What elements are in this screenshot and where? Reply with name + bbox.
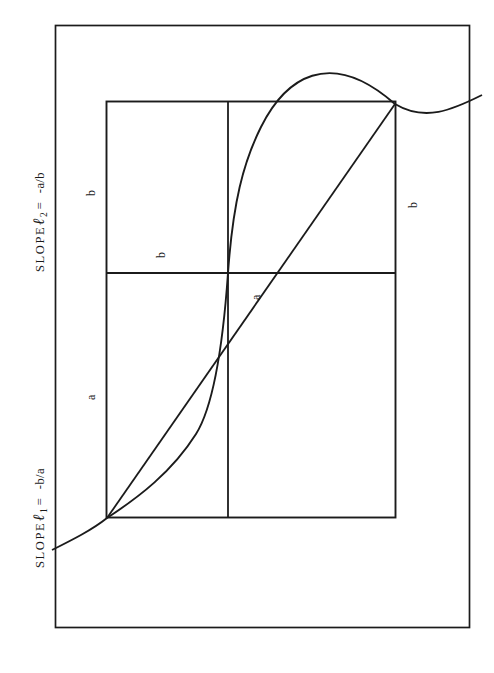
slope-2-equals: = [33,202,47,210]
slope-2-value: -a/b [33,172,47,202]
segment-label-text: b [154,252,168,259]
segment-label-upper-left-b: b [84,190,99,197]
s-curve [52,73,482,550]
segment-label-text: a [249,294,263,300]
slope-1-annotation: SLOPEℓ1=-b/a [30,468,49,568]
figure-canvas: SLOPEℓ2=-a/b SLOPEℓ1=-b/a b a b a b [0,0,494,673]
figure-svg [0,0,494,673]
slope-2-prefix: SLOPE [33,226,47,272]
segment-label-inner-mid-a: a [249,294,264,300]
slope-2-symbol: ℓ [30,217,47,226]
slope-1-equals: = [33,498,47,506]
slope-1-prefix: SLOPE [33,522,47,568]
segment-label-text: b [84,190,98,197]
outer-frame [56,26,470,628]
segment-label-inner-mid-b: b [154,252,169,259]
segment-label-text: a [84,394,98,400]
slope-1-value: -b/a [33,468,47,498]
slope-2-annotation: SLOPEℓ2=-a/b [30,172,49,272]
segment-label-lower-left-a: a [84,394,99,400]
diagonal-chord [107,104,395,518]
segment-label-text: b [406,202,420,209]
segment-label-right-b: b [406,202,421,209]
slope-1-subscript: 1 [39,506,49,513]
slope-1-symbol: ℓ [30,513,47,522]
slope-2-subscript: 2 [39,210,49,217]
